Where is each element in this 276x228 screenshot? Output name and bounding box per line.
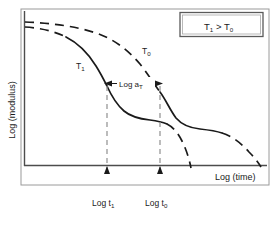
curve-label-t1: T1 — [76, 61, 85, 72]
tick-label-log-t1: Log t1 — [92, 198, 115, 209]
curve-t1-dashed-tail — [167, 124, 191, 168]
x-axis-label: Log (time) — [215, 172, 256, 182]
curve-t0-solid-mid — [160, 92, 222, 133]
curve-t1-dashed-head — [25, 27, 66, 37]
tick-arrow-log-t1-icon — [104, 166, 110, 174]
legend-condition-label: T1 > T0 — [204, 21, 234, 33]
curve-t0-dashed-tail — [222, 133, 261, 167]
y-axis-label: Log (modulus) — [7, 81, 17, 139]
shift-arrow-right-head-icon — [155, 81, 163, 87]
figure-container: Log aT T1 T0 T1 > T0 Log (time) Log (mod… — [0, 0, 276, 228]
tick-arrow-log-t0-icon — [157, 166, 163, 174]
tick-label-log-t0: Log t0 — [145, 198, 168, 209]
plot-canvas: Log aT T1 T0 T1 > T0 Log (time) Log (mod… — [0, 0, 276, 228]
curve-label-t0: T0 — [142, 46, 151, 57]
